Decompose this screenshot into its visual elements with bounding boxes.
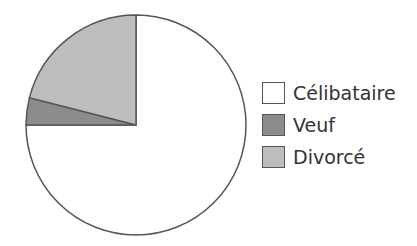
legend-item-veuf: Veuf bbox=[262, 109, 396, 141]
pie-chart bbox=[0, 0, 260, 246]
legend-item-celibataire: Célibataire bbox=[262, 77, 396, 109]
legend-swatch bbox=[262, 114, 285, 136]
legend-label: Veuf bbox=[293, 116, 335, 135]
legend-label: Célibataire bbox=[293, 84, 396, 103]
legend-item-divorce: Divorcé bbox=[262, 141, 396, 173]
legend: Célibataire Veuf Divorcé bbox=[262, 77, 396, 173]
legend-swatch bbox=[262, 146, 285, 168]
legend-label: Divorcé bbox=[293, 148, 365, 167]
legend-swatch bbox=[262, 82, 285, 104]
